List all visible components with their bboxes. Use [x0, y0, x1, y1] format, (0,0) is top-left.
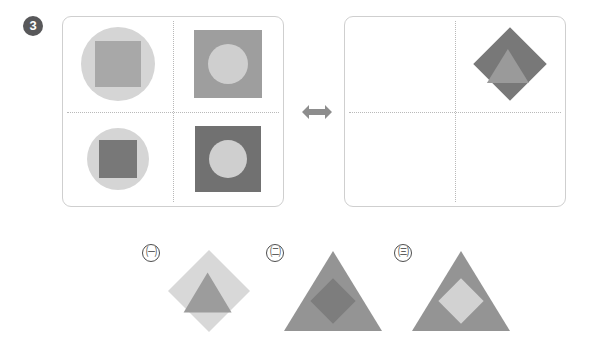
inner-diamond — [310, 278, 355, 323]
shape-diamond-with-triangle — [473, 27, 547, 101]
left-quadrant-bottom-right — [173, 112, 283, 207]
inner-triangle — [184, 272, 232, 312]
option-figure-triangle-with-dark-diamond — [278, 246, 388, 336]
left-pattern-panel — [62, 16, 284, 207]
shape-square-with-circle — [195, 126, 261, 192]
inner-circle — [209, 140, 247, 178]
exchange-arrow-icon — [302, 104, 332, 120]
outer-triangle — [412, 251, 510, 331]
option-figure-diamond-with-triangle — [154, 246, 264, 336]
right-quadrant-bottom-right — [455, 112, 565, 207]
shape-square-with-circle — [194, 30, 262, 98]
inner-square — [99, 140, 137, 178]
outer-triangle — [284, 251, 382, 331]
right-quadrant-top-right — [455, 17, 565, 112]
inner-triangle — [487, 49, 529, 83]
left-quadrant-top-right — [173, 17, 283, 112]
shape-circle-with-square — [87, 128, 149, 190]
left-quadrant-bottom-left — [63, 112, 173, 207]
shape-circle-with-square — [81, 27, 155, 101]
inner-square — [95, 41, 141, 87]
right-pattern-panel — [344, 16, 566, 207]
right-quadrant-top-left — [345, 17, 455, 112]
answer-option-3[interactable]: ㈢ — [380, 232, 530, 353]
inner-diamond — [438, 278, 483, 323]
inner-circle — [208, 44, 248, 84]
answer-options-row: ㈠ ㈡ ㈢ — [0, 232, 604, 353]
option-figure-triangle-with-light-diamond — [406, 246, 516, 336]
outer-diamond — [168, 250, 250, 332]
right-quadrant-bottom-left — [345, 112, 455, 207]
left-quadrant-top-left — [63, 17, 173, 112]
pattern-panels-row — [0, 0, 604, 222]
